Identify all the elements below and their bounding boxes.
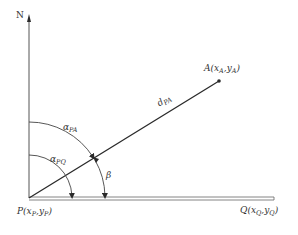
arc-alpha-pa [29,122,93,157]
alpha-pa-label: αPA [63,123,78,134]
point-q-label: Q(xQ,yQ) [240,206,278,217]
point-a-marker [217,79,221,83]
arc-beta-start-arrow-icon [93,157,99,163]
baseline-pq [29,197,274,200]
arc-beta [95,160,105,196]
point-a-label: A(xA,yA) [204,64,240,75]
azimuth-diagram [0,0,298,235]
alpha-pq-label: αPQ [50,155,66,166]
point-p-label: P(xP,yP) [17,207,52,218]
beta-label: β [106,171,111,180]
north-label: N [16,11,24,20]
line-pa [29,81,219,198]
north-arrow-icon [27,14,31,22]
